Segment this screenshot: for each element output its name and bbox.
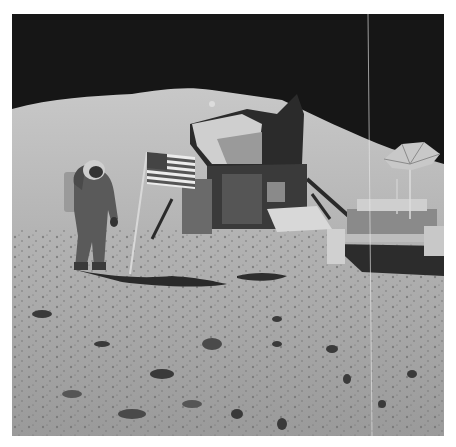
lunar-surface-photo bbox=[12, 14, 444, 436]
photo-canvas bbox=[12, 14, 444, 436]
